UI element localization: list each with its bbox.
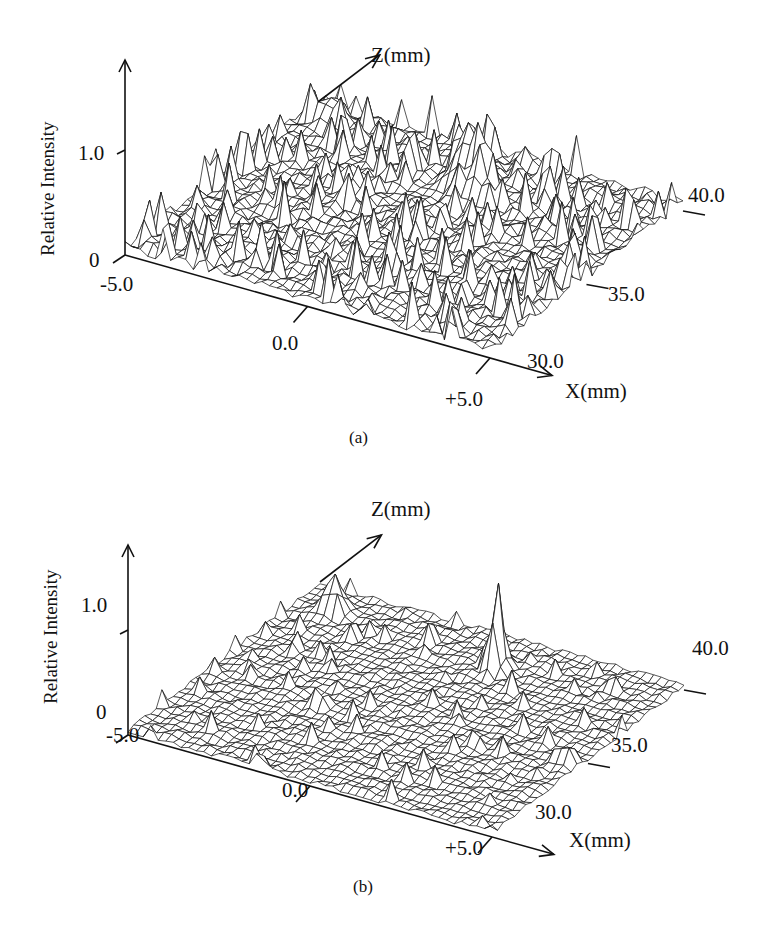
y-axis-label-b: Relative Intensity <box>40 569 62 704</box>
z-axis-label-b: Z(mm) <box>371 499 430 520</box>
surface-plot-b <box>0 480 783 939</box>
panel-b: Relative Intensity 1.0 0 -5.0 0.0 +5.0 3… <box>0 480 783 939</box>
z-tick-35 <box>587 285 609 289</box>
x-tick-minus5-a: -5.0 <box>100 274 133 295</box>
z-axis-label-a: Z(mm) <box>371 45 430 66</box>
z-tick-40-a: 40.0 <box>688 185 725 206</box>
caption-b: (b) <box>353 877 373 897</box>
panel-a: Relative Intensity 1.0 0 -5.0 0.0 +5.0 3… <box>0 0 783 470</box>
z-tick-40-b: 40.0 <box>692 638 729 659</box>
x-tick-0-a: 0.0 <box>272 333 298 354</box>
caption-a: (a) <box>349 428 368 448</box>
x-axis-label-a: X(mm) <box>565 381 627 402</box>
intensity-tick-1 <box>117 150 125 154</box>
x-tick-plus5-a: +5.0 <box>445 389 483 410</box>
x-axis-label-b: X(mm) <box>569 830 631 851</box>
z-tick-35 <box>588 764 610 768</box>
z-tick-30-a: 30.0 <box>527 351 564 372</box>
z-tick-35-b: 35.0 <box>611 735 648 756</box>
z-tick-40 <box>684 690 706 694</box>
y-tick-0-b: 0 <box>96 702 107 723</box>
y-tick-0-a: 0 <box>89 250 100 271</box>
z-axis <box>320 535 381 582</box>
z-tick-40 <box>683 211 705 215</box>
x-tick-0 <box>294 307 308 323</box>
z-tick-35-a: 35.0 <box>608 284 645 305</box>
surface-plot-a <box>0 0 783 470</box>
x-tick-plus5 <box>476 358 490 374</box>
y-tick-1-b: 1.0 <box>81 595 107 616</box>
intensity-tick-1 <box>120 630 128 634</box>
x-tick-plus5-b: +5.0 <box>445 838 483 859</box>
wireframe-surface <box>128 574 684 830</box>
x-tick-0-b: 0.0 <box>282 780 308 801</box>
x-tick-minus5-b: -5.0 <box>106 725 139 746</box>
z-tick-30-b: 30.0 <box>535 802 572 823</box>
y-axis-label-a: Relative Intensity <box>37 121 59 256</box>
y-tick-1-a: 1.0 <box>78 143 104 164</box>
wireframe-surface <box>125 84 683 349</box>
intensity-tick-0 <box>113 255 125 263</box>
